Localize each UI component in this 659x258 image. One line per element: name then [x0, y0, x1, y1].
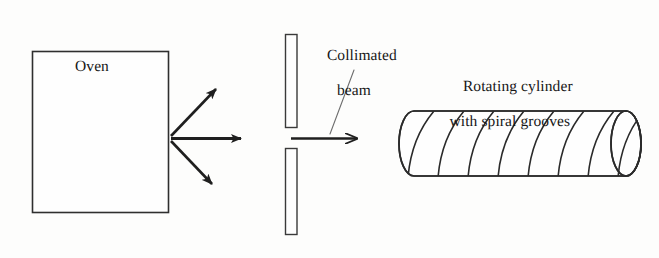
- ray-up-arrow: [171, 89, 216, 136]
- collimator-plate-lower: [286, 149, 298, 235]
- collimated-beam-label: Collimated beam: [311, 29, 397, 135]
- emitted-rays-group: [171, 89, 241, 184]
- ray-down-arrow: [171, 141, 212, 184]
- oven-label: Oven: [75, 58, 109, 76]
- rotating-cylinder-label: Rotating cylinder with spiral grooves: [447, 60, 573, 166]
- rotating-cylinder-label-line1: Rotating cylinder: [463, 78, 573, 95]
- collimated-beam-label-line2: beam: [311, 82, 397, 100]
- collimated-beam-label-line1: Collimated: [327, 47, 397, 64]
- rotating-cylinder-label-line2: with spiral grooves: [447, 113, 573, 131]
- figure-canvas: Oven Collimated beam Rotating cylinder w…: [0, 0, 659, 258]
- collimator-plate-upper: [286, 35, 298, 128]
- collimator-group: [286, 35, 298, 235]
